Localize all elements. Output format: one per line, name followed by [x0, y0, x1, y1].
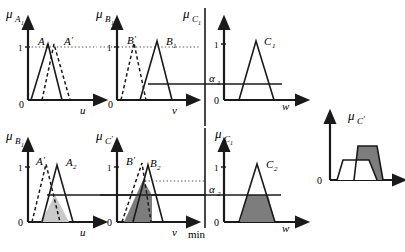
- y-tick-one-label: 1: [107, 163, 112, 173]
- panel-b2: μ C ′ 1 0 B ′ B 2 v: [95, 128, 205, 238]
- label-A2-sub: 2: [73, 163, 77, 171]
- y-axis-label-sub: A: [14, 14, 21, 24]
- label-B2-sub: 2: [157, 164, 161, 172]
- label-Aprime: A: [63, 35, 71, 47]
- label-A1: A: [37, 35, 45, 47]
- label-C1: C: [264, 35, 272, 47]
- y-tick-one-label: 1: [107, 43, 112, 53]
- y-tick-zero-label: 0: [317, 175, 322, 186]
- label-A2: A: [65, 156, 73, 168]
- label-C2-sub: 2: [274, 165, 278, 173]
- y-axis-label-mu: μ: [182, 6, 190, 21]
- alpha2-label: α: [209, 183, 215, 195]
- label-B2: B: [150, 157, 157, 169]
- label-C1-sub: 1: [272, 42, 276, 50]
- y-tick-zero-label: 0: [214, 95, 219, 106]
- shape-B1: [140, 41, 172, 100]
- label-Bprime: B: [126, 155, 133, 167]
- fuzzy-inference-diagram: μ A 1 1 0 A 1 A ′ u μ B 1 1 0 B ′: [0, 0, 405, 252]
- y-axis-label-mu: μ: [214, 126, 222, 141]
- y-tick-one-label: 1: [18, 43, 23, 53]
- alpha1-label: α: [209, 72, 215, 84]
- min-label: min: [188, 228, 206, 240]
- label-Aprime-sub: ′: [43, 155, 46, 165]
- label-Aprime: A: [35, 155, 43, 167]
- label-Bprime-sub: ′: [134, 34, 137, 44]
- panel-output: μ C ′ 0: [317, 108, 394, 186]
- shape-C1: [239, 41, 274, 100]
- label-B1: B: [166, 35, 173, 47]
- label-Aprime-sub: ′: [71, 35, 74, 45]
- panel-c2: μ C 1 1 0 α 2 C 2 w: [205, 126, 297, 234]
- x-axis-label-v: v: [172, 104, 177, 116]
- label-B1-sub: 1: [173, 42, 177, 50]
- y-axis-label-sub2: ′: [111, 135, 113, 144]
- x-axis-label-u: u: [80, 104, 86, 116]
- figure-root: μ A 1 1 0 A 1 A ′ u μ B 1 1 0 B ′: [0, 0, 405, 252]
- y-tick-zero-label: 0: [214, 217, 219, 228]
- x-axis-label-u: u: [80, 226, 86, 238]
- panel-c1: μ C 1 1 0 α 1 C 1 w: [182, 6, 297, 112]
- y-axis-label-sub2: 1: [21, 20, 24, 26]
- y-tick-zero-label: 0: [18, 217, 23, 228]
- alpha1-label-sub: 1: [217, 79, 221, 87]
- y-axis-label-mu: μ: [5, 128, 13, 143]
- y-axis-label-sub2: 1: [21, 142, 24, 148]
- y-axis-label-sub2: 1: [198, 20, 201, 26]
- y-axis-label-sub2: ′: [363, 115, 365, 124]
- y-axis-label-mu: μ: [95, 128, 103, 143]
- x-axis-label-w: w: [282, 222, 290, 234]
- y-tick-zero-label: 0: [19, 99, 24, 110]
- y-tick-one-label: 1: [214, 163, 219, 173]
- clipped-region-C2: [240, 195, 275, 222]
- label-C2: C: [266, 158, 274, 170]
- y-axis-label-mu: μ: [5, 6, 13, 21]
- y-axis-label-sub2: 1: [230, 140, 233, 146]
- y-tick-zero-label: 0: [108, 99, 113, 110]
- shape-A1: [31, 44, 62, 100]
- x-axis-label-v: v: [172, 226, 177, 238]
- label-A1-sub: 1: [45, 42, 49, 50]
- panel-b1: μ B 1 1 0 B ′ B 1 v: [95, 6, 205, 116]
- y-axis-label-mu: μ: [95, 6, 103, 21]
- label-Bprime: B: [127, 34, 134, 46]
- y-axis-label-sub2: 1: [111, 20, 114, 26]
- y-tick-zero-label: 0: [107, 217, 112, 228]
- label-Bprime-sub: ′: [133, 155, 136, 165]
- alpha2-label-sub: 2: [217, 190, 221, 198]
- x-axis-label-w: w: [282, 100, 290, 112]
- y-tick-one-label: 1: [214, 40, 219, 50]
- panel-a1: μ A 1 1 0 A 1 A ′ u: [5, 6, 97, 116]
- y-axis-label-mu: μ: [347, 108, 355, 123]
- y-tick-one-label: 1: [18, 163, 23, 173]
